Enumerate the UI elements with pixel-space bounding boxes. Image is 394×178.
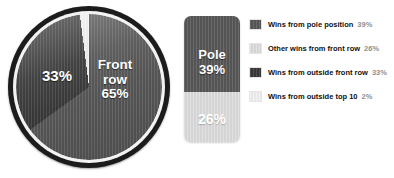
legend-label: Wins from outside top 10 (268, 92, 358, 101)
legend-item-pole-position: Wins from pole position 39% (249, 12, 391, 36)
chart-figure: 33% Front row 65% Pole 39% 26% Wins from… (0, 0, 394, 178)
legend-swatch-icon (249, 67, 262, 78)
bar-segment-other-front-row (184, 92, 240, 142)
pie-slices (16, 14, 162, 160)
legend-item-outside-top-10: Wins from outside top 10 2% (249, 84, 391, 108)
bar-top-texture (184, 16, 240, 92)
legend-swatch-icon (249, 91, 262, 102)
chart-legend: Wins from pole position 39% Other wins f… (249, 12, 391, 108)
legend-value: 39% (357, 20, 372, 29)
legend-value: 26% (364, 44, 379, 53)
legend-value: 2% (362, 92, 373, 101)
legend-item-other-front-row: Other wins from front row 26% (249, 36, 391, 60)
pie-texture (16, 14, 162, 160)
legend-label: Wins from outside front row (268, 68, 368, 77)
legend-label: Other wins from front row (268, 44, 360, 53)
bar-bottom-texture (184, 92, 240, 142)
stacked-bar: Pole 39% 26% (184, 16, 240, 142)
legend-value: 33% (372, 68, 387, 77)
legend-swatch-icon (249, 19, 262, 30)
legend-swatch-icon (249, 43, 262, 54)
legend-item-outside-front-row: Wins from outside front row 33% (249, 60, 391, 84)
pie-face (16, 14, 162, 160)
pie-chart: 33% Front row 65% (8, 6, 170, 168)
bar-segment-pole (184, 16, 240, 92)
legend-label: Wins from pole position (268, 20, 353, 29)
